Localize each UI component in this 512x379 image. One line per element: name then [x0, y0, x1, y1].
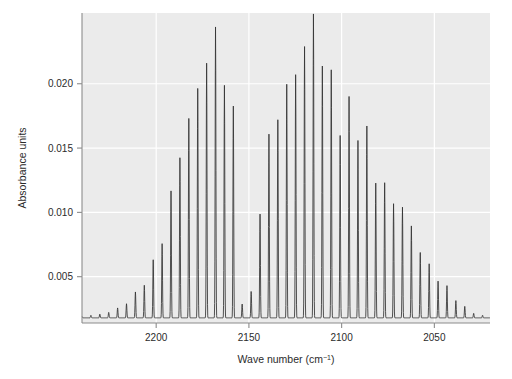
xtick-label-0: 2200 — [145, 332, 168, 343]
spectrum-chart: 0.0050.0100.0150.0202200215021002050Wave… — [0, 0, 512, 379]
figure-container: 0.0050.0100.0150.0202200215021002050Wave… — [0, 0, 512, 379]
ytick-label-0: 0.005 — [48, 271, 73, 282]
xtick-label-2: 2100 — [331, 332, 354, 343]
xtick-label-1: 2150 — [238, 332, 261, 343]
xtick-label-3: 2050 — [423, 332, 446, 343]
x-axis-title: Wave number (cm−1) — [238, 353, 335, 365]
ytick-label-3: 0.020 — [48, 78, 73, 89]
ytick-label-1: 0.010 — [48, 207, 73, 218]
y-axis-title: Absorbance units — [16, 127, 28, 208]
ytick-label-2: 0.015 — [48, 143, 73, 154]
